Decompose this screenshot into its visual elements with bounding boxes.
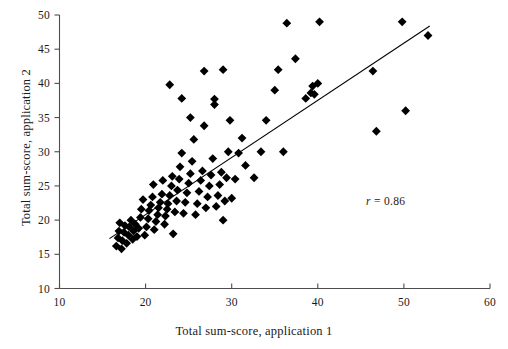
- data-point: [219, 216, 228, 225]
- data-point: [222, 173, 231, 182]
- x-axis-ticks: [60, 284, 491, 289]
- x-axis-tick-label: 40: [312, 296, 324, 308]
- data-point: [176, 162, 185, 171]
- data-point: [160, 220, 169, 229]
- data-point: [201, 203, 210, 212]
- data-point: [214, 191, 223, 200]
- data-point: [188, 157, 197, 166]
- data-point: [241, 161, 250, 170]
- data-point: [205, 182, 214, 191]
- correlation-annotation: r = 0.86: [366, 195, 405, 207]
- data-point: [372, 127, 381, 136]
- data-point: [226, 116, 235, 125]
- data-point: [270, 86, 279, 95]
- data-point: [189, 135, 198, 144]
- data-point: [203, 192, 212, 201]
- data-point: [164, 199, 173, 208]
- data-point: [191, 210, 200, 219]
- data-point: [282, 19, 291, 28]
- data-point: [179, 209, 188, 218]
- data-point: [250, 173, 259, 182]
- y-axis-ticks: [55, 15, 60, 289]
- data-point: [274, 65, 283, 74]
- data-point: [200, 67, 209, 76]
- data-point: [198, 166, 207, 175]
- data-point: [169, 229, 178, 238]
- data-point: [369, 67, 378, 76]
- x-axis-tick-label: 10: [54, 296, 66, 308]
- data-point: [215, 180, 224, 189]
- y-axis-title: Total sum-score, application 2: [19, 0, 34, 298]
- data-point: [291, 54, 300, 63]
- data-point: [165, 80, 174, 89]
- data-point: [279, 147, 288, 156]
- correlation-operator: =: [374, 195, 381, 207]
- data-point: [200, 121, 209, 130]
- data-point: [212, 202, 221, 211]
- data-point: [208, 154, 217, 163]
- data-point: [186, 169, 195, 178]
- data-point: [186, 113, 195, 122]
- data-point: [301, 94, 310, 103]
- data-point: [262, 116, 271, 125]
- data-point: [142, 223, 151, 232]
- data-point: [158, 176, 167, 185]
- data-point: [210, 100, 219, 109]
- data-point: [177, 149, 186, 158]
- data-point: [398, 17, 407, 26]
- x-axis-title: Total sum-score, application 1: [0, 324, 508, 339]
- data-point: [161, 212, 170, 221]
- x-axis-tick-label: 50: [398, 296, 410, 308]
- data-point: [217, 168, 226, 177]
- data-point: [153, 210, 162, 219]
- data-point: [139, 195, 148, 204]
- data-point: [219, 65, 228, 74]
- x-axis-tick-label: 60: [484, 296, 496, 308]
- data-point: [315, 17, 324, 26]
- data-point: [170, 208, 179, 217]
- data-point-series: [112, 17, 432, 253]
- data-point: [137, 205, 146, 214]
- scatter-plot-figure: 101520253035404550 102030405060 Total su…: [0, 0, 508, 349]
- plot-canvas: [0, 0, 508, 349]
- data-point: [257, 147, 266, 156]
- data-point: [424, 31, 433, 40]
- x-axis-tick-label: 20: [140, 296, 152, 308]
- x-axis-tick-label: 30: [226, 296, 238, 308]
- data-point: [158, 190, 167, 199]
- data-point: [181, 198, 190, 207]
- data-point: [140, 231, 149, 240]
- data-point: [401, 106, 410, 115]
- data-point: [172, 197, 181, 206]
- data-point: [231, 175, 240, 184]
- correlation-value: 0.86: [384, 195, 405, 207]
- data-point: [195, 187, 204, 196]
- data-point: [193, 199, 202, 208]
- data-point: [144, 214, 153, 223]
- data-point: [150, 225, 159, 234]
- data-point: [148, 192, 157, 201]
- data-point: [224, 147, 233, 156]
- data-point: [207, 171, 216, 180]
- data-point: [238, 134, 247, 143]
- data-point: [152, 217, 161, 226]
- data-point: [149, 180, 158, 189]
- data-point: [177, 94, 186, 103]
